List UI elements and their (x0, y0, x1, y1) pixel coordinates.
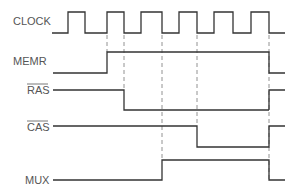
signal-label-clock: CLOCK (13, 15, 52, 27)
signal-label-ras: RAS (27, 84, 50, 96)
guide-lines (107, 35, 269, 180)
memr-waveform (53, 52, 285, 73)
cas-waveform (53, 126, 285, 147)
signal-label-cas: CAS (27, 121, 50, 133)
mux-waveform (53, 160, 285, 180)
ras-waveform (53, 90, 269, 110)
timing-diagram: CLOCK MEMR RAS CAS MUX (0, 0, 297, 195)
ras-waveform-end (269, 90, 285, 110)
clock-waveform (52, 12, 285, 33)
signal-label-mux: MUX (25, 174, 50, 186)
signal-label-memr: MEMR (13, 55, 47, 67)
